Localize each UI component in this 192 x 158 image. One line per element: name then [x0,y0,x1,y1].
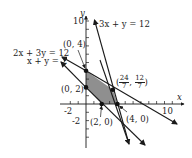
paren-close: ) [145,77,148,87]
x-axis-label: x [177,93,182,102]
vertex-label-0-4: (0, 4) [63,40,86,49]
vertex-label-0-2: (0, 2) [61,85,84,94]
linear-programming-graph: y x 10 -2 -2 10 3x + y = 12 2x + 3y = 12… [0,0,192,158]
equation-label-x-plus-y: x + y = 2 [27,57,67,66]
graph-canvas [0,0,192,158]
vertex-24-7-12-7 [111,88,116,93]
denominator: 7 [137,83,141,90]
y-tick-label-neg2: -2 [72,117,80,126]
vertex-label-4-0: (4, 0) [126,115,149,124]
pointer-0-4 [78,50,85,68]
pointer-2-0 [101,106,102,117]
pointer-4-0 [120,106,128,112]
fraction-24-7: 247 [119,75,129,89]
vertex-label-24-7-12-7: (247, 127) [116,75,148,89]
denominator: 7 [122,83,126,90]
x-tick-label-10: 10 [162,107,173,116]
y-tick-label-10: 10 [73,17,84,26]
fraction-12-7: 127 [135,75,145,89]
x-tick-label-neg2: -2 [64,107,72,116]
equation-label-3x-plus-y: 3x + y = 12 [99,20,150,29]
vertex-2-0 [99,102,104,107]
vertex-4-0 [115,102,120,107]
vertex-0-2 [84,85,89,90]
vertex-label-2-0: (2, 0) [90,118,113,127]
vertex-0-4 [84,69,89,74]
